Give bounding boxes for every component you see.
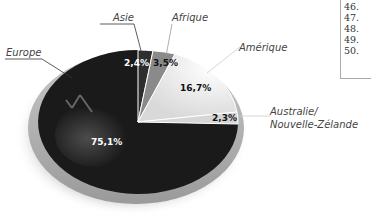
pct-afrique: 3,5% xyxy=(153,58,178,68)
pct-asie: 2,4% xyxy=(124,58,149,68)
side-list-item: 47. xyxy=(341,12,371,23)
label-australie-line1: Australie/ xyxy=(269,106,319,117)
label-amerique: Amérique xyxy=(238,42,287,53)
pct-australie: 2,3% xyxy=(212,113,237,123)
side-list-item: 49. xyxy=(341,34,371,45)
grape-image xyxy=(55,103,135,167)
side-list-item: 50. xyxy=(341,45,371,56)
label-australie-line2: Nouvelle-Zélande xyxy=(270,119,358,130)
label-europe: Europe xyxy=(6,47,41,58)
leader-amerique xyxy=(207,47,240,73)
pct-europe: 75,1% xyxy=(91,137,122,147)
label-afrique: Afrique xyxy=(171,12,208,23)
side-list-item: 46. xyxy=(341,1,371,12)
side-list-item: 48. xyxy=(341,23,371,34)
side-list: 45. 46. 47. 48. 49. 50. xyxy=(340,0,371,79)
pct-amerique: 16,7% xyxy=(180,83,211,93)
label-asie: Asie xyxy=(112,12,134,23)
leader-afrique xyxy=(166,24,172,56)
